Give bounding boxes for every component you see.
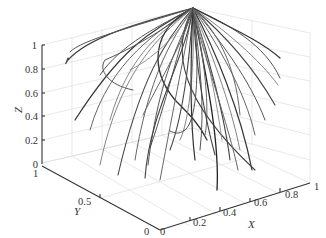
3d-line-plot: 1 0.8 0.6 0.4 0.2 0 1 0.5 0 0 0.2 0.4 0.…: [0, 0, 326, 238]
svg-text:0: 0: [160, 226, 165, 237]
trajectory-curves: [66, 8, 280, 190]
y-tick-labels: 1 0.5 0: [33, 168, 149, 237]
x-axis-label: X: [247, 218, 256, 230]
svg-text:0.8: 0.8: [285, 189, 298, 200]
svg-text:1: 1: [314, 181, 319, 192]
svg-text:1: 1: [33, 168, 38, 179]
svg-text:0: 0: [144, 226, 149, 237]
svg-text:0.4: 0.4: [223, 207, 237, 218]
svg-text:0.4: 0.4: [25, 111, 39, 122]
z-tick-labels: 1 0.8 0.6 0.4 0.2 0: [25, 40, 39, 170]
x-tick-labels: 0 0.2 0.4 0.6 0.8 1: [160, 181, 319, 237]
grid-lines: [42, 8, 310, 226]
svg-text:0.6: 0.6: [254, 197, 267, 208]
svg-text:0.2: 0.2: [193, 217, 206, 228]
z-axis-label: Z: [12, 106, 24, 113]
svg-text:0.2: 0.2: [25, 135, 38, 146]
svg-text:0.8: 0.8: [25, 64, 38, 75]
svg-text:0.6: 0.6: [25, 88, 38, 99]
svg-text:1: 1: [32, 40, 37, 51]
